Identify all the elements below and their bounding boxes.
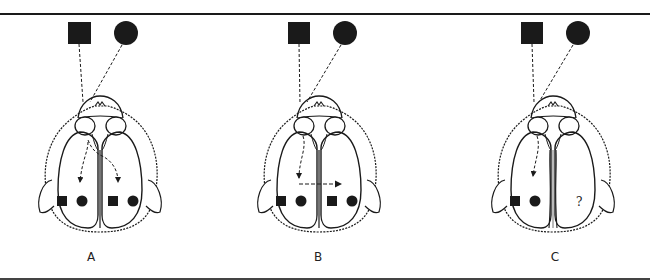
circle-stimulus-icon [333, 21, 357, 45]
panel-label-c: C [551, 250, 559, 264]
split-brain-figure: ? A B C [0, 0, 650, 280]
circle-memory-icon [347, 196, 358, 207]
panel-a [39, 21, 162, 232]
square-memory-icon [276, 196, 286, 206]
square-stimulus-icon [288, 22, 310, 44]
circle-memory-icon [530, 196, 541, 207]
panel-label-b: B [314, 250, 322, 264]
square-memory-icon [57, 196, 67, 206]
circle-stimulus-icon [566, 21, 590, 45]
circle-memory-icon [77, 196, 88, 207]
circle-memory-icon [296, 196, 307, 207]
panel-c: ? [492, 21, 615, 232]
panel-b [258, 21, 381, 232]
circle-memory-icon [128, 196, 139, 207]
unknown-memory-marker: ? [576, 195, 582, 209]
square-memory-icon [108, 196, 118, 206]
square-stimulus-icon [68, 22, 91, 44]
square-memory-icon [510, 196, 520, 206]
circle-stimulus-icon [114, 21, 138, 45]
panel-label-a: A [87, 250, 95, 264]
square-stimulus-icon [521, 22, 543, 44]
square-memory-icon [327, 196, 337, 206]
figure-drawing: ? [0, 0, 650, 280]
